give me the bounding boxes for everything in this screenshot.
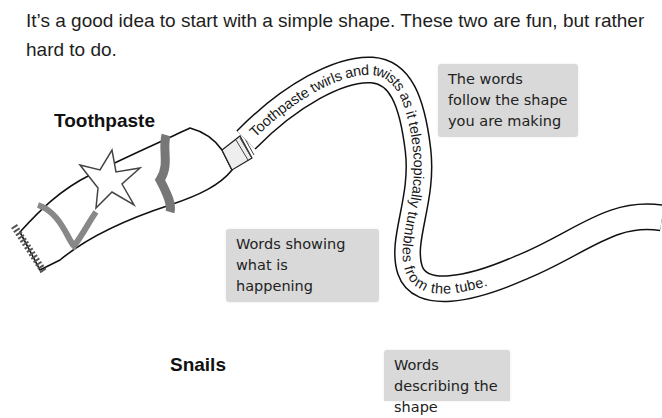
- toothpaste-tube-icon: [14, 128, 254, 272]
- note-describing-shape: Words describing the shape: [384, 350, 510, 401]
- snails-heading: Snails: [170, 354, 226, 376]
- note-follow-shape: The words follow the shape you are makin…: [438, 64, 578, 137]
- note-what-is-happening: Words showing what is happening: [226, 229, 379, 302]
